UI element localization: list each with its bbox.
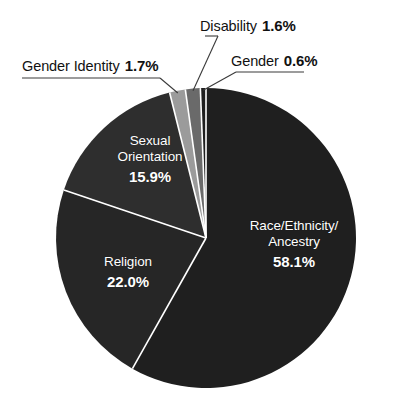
slice-label-name: Gender Identity <box>22 58 120 74</box>
slice-label-percent: 0.6% <box>284 52 318 69</box>
pie-chart: Race/Ethnicity/ Ancestry 58.1% Religion … <box>0 0 415 410</box>
leader-line-disability <box>193 36 218 91</box>
slice-label-percent: 1.6% <box>262 17 296 34</box>
slice-label-name: Disability <box>200 18 257 34</box>
slice-callout-gender: Gender0.6% <box>231 52 318 70</box>
slice-callout-gender-identity: Gender Identity1.7% <box>22 57 158 75</box>
slice-label-percent: 1.7% <box>125 57 159 74</box>
slice-callout-disability: Disability1.6% <box>200 17 296 35</box>
leader-line-gender-identity <box>160 78 178 93</box>
slice-label-name: Gender <box>231 53 279 69</box>
leader-line-gender <box>203 72 236 90</box>
